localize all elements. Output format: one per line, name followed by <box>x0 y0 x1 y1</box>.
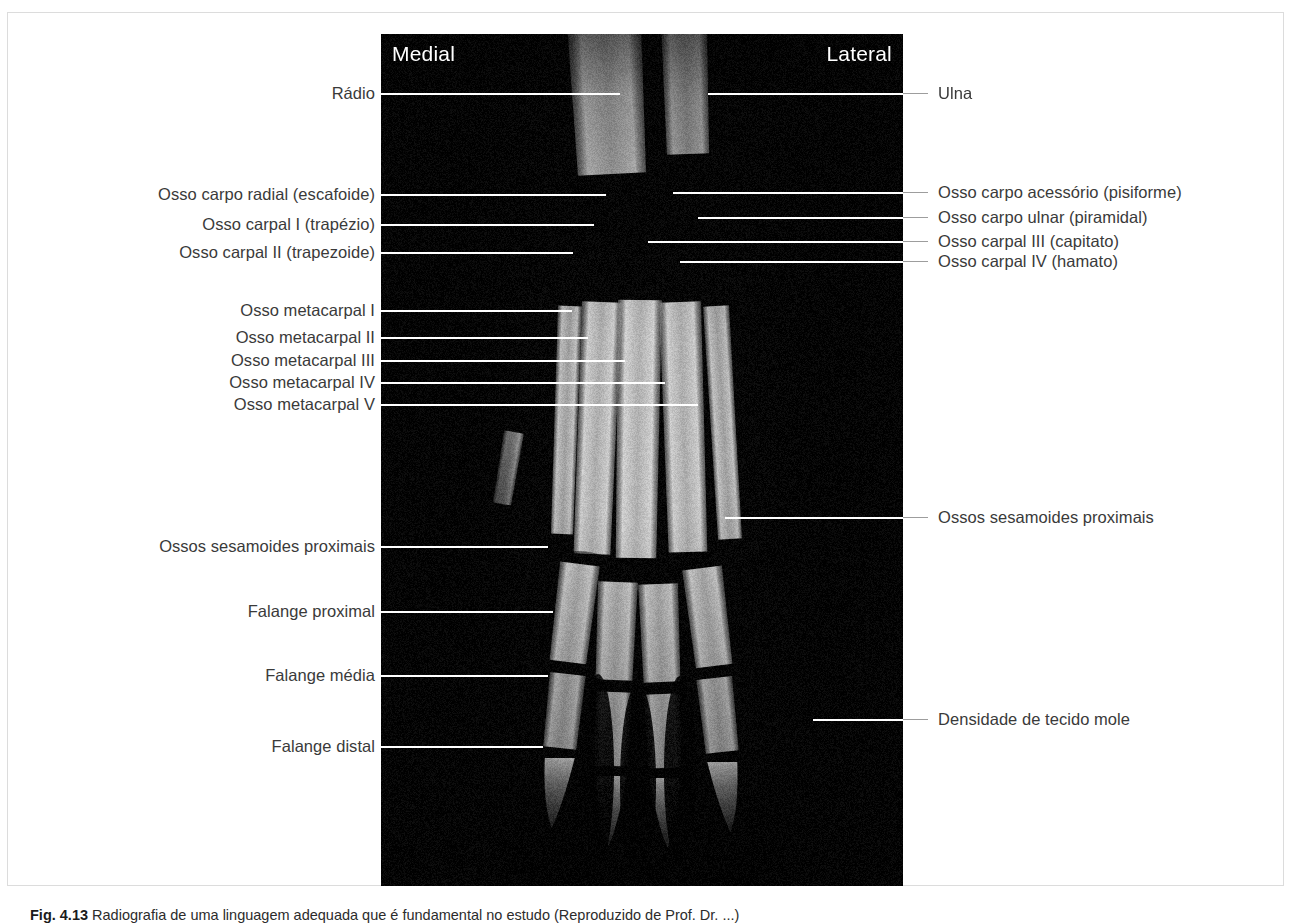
leader-line-inner-capitato <box>648 241 903 243</box>
callout-label-trapezio: Osso carpal I (trapézio) <box>8 215 375 233</box>
leader-line-inner-ulna <box>708 93 903 95</box>
radiograph-image: Medial Lateral <box>381 34 903 886</box>
xray-canvas <box>381 34 903 886</box>
callout-label-escafoide: Osso carpo radial (escafoide) <box>8 185 375 203</box>
orientation-label-medial: Medial <box>392 42 455 66</box>
callout-label-fal-media: Falange média <box>8 666 375 684</box>
leader-line-inner-tecido-mole <box>813 719 903 721</box>
callout-label-fal-prox: Falange proximal <box>8 602 375 620</box>
leader-line-inner-hamato <box>680 261 903 263</box>
leader-line-pisiforme <box>903 192 928 193</box>
leader-line-sesam-right <box>903 517 928 518</box>
leader-line-hamato <box>903 261 928 262</box>
leader-line-inner-pisiforme <box>673 192 903 194</box>
callout-label-sesam-right: Ossos sesamoides proximais <box>938 508 1154 526</box>
callout-label-hamato: Osso carpal IV (hamato) <box>938 252 1118 270</box>
callout-label-mc5: Osso metacarpal V <box>8 395 375 413</box>
callout-label-mc3: Osso metacarpal III <box>8 351 375 369</box>
callout-label-radio: Rádio <box>8 84 375 102</box>
leader-line-inner-fal-prox <box>381 611 553 613</box>
caption-number: Fig. 4.13 <box>30 907 88 923</box>
leader-line-inner-mc1 <box>381 310 572 312</box>
orientation-label-lateral: Lateral <box>826 42 892 66</box>
callout-label-pisiforme: Osso carpo acessório (pisiforme) <box>938 183 1182 201</box>
leader-line-capitato <box>903 241 928 242</box>
leader-line-inner-piramidal <box>698 217 903 219</box>
figure-card: Medial Lateral RádioOsso carpo radial (e… <box>7 12 1284 886</box>
callout-label-mc2: Osso metacarpal II <box>8 328 375 346</box>
leader-line-inner-trapezio <box>381 224 594 226</box>
callout-label-ulna: Ulna <box>938 84 972 102</box>
leader-line-ulna <box>903 93 928 94</box>
callout-label-mc1: Osso metacarpal I <box>8 301 375 319</box>
leader-line-inner-mc4 <box>381 382 665 384</box>
callout-label-trapezoide: Osso carpal II (trapezoide) <box>8 243 375 261</box>
callout-label-sesam-left: Ossos sesamoides proximais <box>8 537 375 555</box>
caption-text: Radiografia de uma linguagem adequada qu… <box>92 907 739 923</box>
callout-label-fal-distal: Falange distal <box>8 737 375 755</box>
leader-line-inner-radio <box>381 93 620 95</box>
leader-line-inner-mc2 <box>381 337 588 339</box>
figure-caption: Fig. 4.13 Radiografia de uma linguagem a… <box>30 906 1270 924</box>
leader-line-inner-escafoide <box>381 194 606 196</box>
callout-label-capitato: Osso carpal III (capitato) <box>938 232 1119 250</box>
callout-label-mc4: Osso metacarpal IV <box>8 373 375 391</box>
leader-line-inner-mc5 <box>381 404 698 406</box>
leader-line-inner-mc3 <box>381 360 625 362</box>
leader-line-inner-trapezoide <box>381 252 573 254</box>
leader-line-inner-fal-media <box>381 675 548 677</box>
callout-label-piramidal: Osso carpo ulnar (piramidal) <box>938 208 1148 226</box>
leader-line-tecido-mole <box>903 719 928 720</box>
leader-line-piramidal <box>903 217 928 218</box>
callout-label-tecido-mole: Densidade de tecido mole <box>938 710 1130 728</box>
leader-line-inner-fal-distal <box>381 746 543 748</box>
leader-line-inner-sesam-left <box>381 546 548 548</box>
leader-line-inner-sesam-right <box>725 517 903 519</box>
